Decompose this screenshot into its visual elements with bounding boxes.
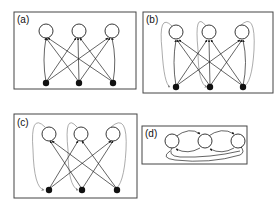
open-node [72,24,86,38]
open-node [39,24,53,38]
open-node [105,24,119,38]
panel-b: (b) [143,12,273,93]
open-node [42,127,56,141]
filled-node [114,187,120,193]
panel-c-label: (c) [17,117,29,128]
panel-d: (d) [142,126,247,164]
open-node [231,134,245,148]
filled-node [43,80,49,86]
panel-d-border [142,126,247,164]
open-node [165,134,179,148]
open-node [106,127,120,141]
open-node [235,25,249,39]
panel-a-border [14,12,136,89]
filled-node [79,187,85,193]
panel-b-label: (b) [146,14,158,25]
filled-node [207,84,213,90]
panel-c: (c) [14,114,137,198]
open-node [169,25,183,39]
panel-a: (a) [14,12,136,89]
filled-node [110,80,116,86]
filled-node [240,84,246,90]
panel-a-label: (a) [17,14,29,25]
open-node [198,134,212,148]
open-node [74,127,88,141]
filled-node [76,80,82,86]
filled-node [46,187,52,193]
panel-d-label: (d) [145,128,157,139]
filled-node [173,84,179,90]
open-node [202,25,216,39]
network-diagram-figure: (a) (b) [0,0,279,208]
